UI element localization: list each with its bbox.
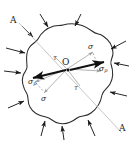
sigma-p-right-label: σp [99, 65, 107, 73]
sigma-upper-label: σ [88, 43, 93, 51]
load-arrow-lower-left [8, 101, 24, 108]
tau-upper-label: τ [53, 55, 57, 62]
section-label-top: A [10, 16, 17, 25]
component-closure-left [36, 83, 44, 92]
load-arrow-left [4, 71, 21, 73]
load-arrow-upper-right [111, 41, 126, 49]
tau-lower-label: τ [74, 85, 78, 92]
figure-canvas [0, 0, 135, 155]
section-label-bottom: A [119, 124, 126, 133]
load-arrow-top-left [40, 14, 48, 27]
origin-label: O [62, 58, 69, 67]
load-arrow-lower-right [110, 92, 127, 96]
sigma-p-left-label: σp [28, 78, 36, 86]
origin-point [67, 69, 70, 72]
load-arrow-right [114, 63, 129, 66]
stress-analysis-figure: A A O σ σ σp σp τ τ [0, 0, 135, 155]
sigma-p-left-subscript: p [33, 80, 36, 86]
sigma-lower-label: σ [41, 95, 46, 103]
load-arrow-upper-left [6, 48, 25, 53]
load-arrow-bottom-right [88, 120, 95, 136]
sigma-p-right-subscript: p [104, 67, 107, 73]
load-arrow-bottom-left [41, 121, 45, 136]
load-arrow-bottom-mid [62, 126, 64, 140]
